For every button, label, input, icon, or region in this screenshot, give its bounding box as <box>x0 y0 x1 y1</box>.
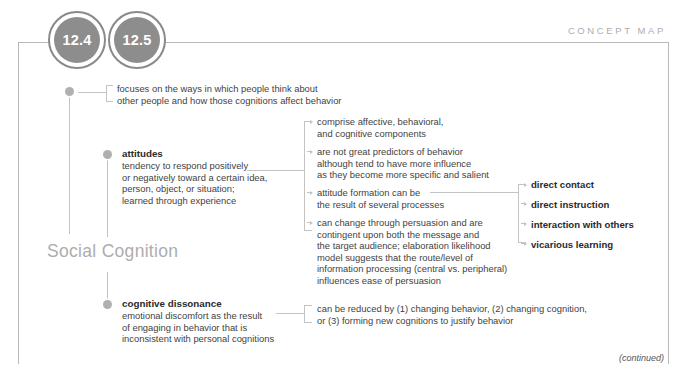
cognitive-dissonance-term: cognitive dissonance <box>122 298 302 310</box>
attitudes-detail-2: are not great predictors of behavior alt… <box>317 146 532 181</box>
attitudes-term: attitudes <box>122 148 297 160</box>
concept-map-label: CONCEPT MAP <box>568 25 666 36</box>
map-title: Social Cognition <box>47 241 178 262</box>
bracket-intro <box>106 85 113 102</box>
cognitive-dissonance-definition: emotional discomfort as the result of en… <box>122 310 274 344</box>
formation-source-direct-contact: direct contact <box>531 179 671 191</box>
attitudes-detail-4: can change through persuasion and are co… <box>317 217 532 287</box>
chapter-badge-number: 12.4 <box>62 32 91 48</box>
tick-attitudes-detail-1 <box>307 121 312 122</box>
frame-border-top-right <box>150 42 668 43</box>
attitudes-detail-3: attitude formation can be the result of … <box>317 187 532 210</box>
chapter-badges: 12.4 12.5 <box>48 11 166 69</box>
cognitive-dissonance-detail-1: can be reduced by (1) changing behavior,… <box>317 303 637 326</box>
trunk-line-primary <box>69 94 70 234</box>
bracket-dissonance-details <box>304 305 312 323</box>
node-dot-intro <box>65 87 74 96</box>
tick-attitudes-detail-4 <box>307 222 312 223</box>
trunk-line-attitudes <box>107 157 108 237</box>
connector-dissonance-details <box>276 313 304 314</box>
formation-source-interaction-with-others: interaction with others <box>531 219 671 231</box>
concept-map-page: CONCEPT MAP 12.4 12.5 Social Cognition f… <box>0 0 688 383</box>
connector-attitudes-details <box>247 170 304 171</box>
intro-text: focuses on the ways in which people thin… <box>117 83 377 106</box>
bracket-attitudes-details <box>304 121 312 231</box>
attitudes-definition: tendency to respond positively or negati… <box>122 160 267 206</box>
tick-source-3 <box>521 223 526 224</box>
chapter-badge-12-4: 12.4 <box>48 11 106 69</box>
tick-attitudes-detail-3 <box>307 192 312 193</box>
tick-source-1 <box>521 184 526 185</box>
connector-formation-sources <box>430 192 518 193</box>
formation-source-direct-instruction: direct instruction <box>531 199 671 211</box>
tick-source-2 <box>521 203 526 204</box>
node-dot-attitudes <box>103 150 112 159</box>
bracket-formation-sources <box>518 184 526 243</box>
formation-source-vicarious-learning: vicarious learning <box>531 239 671 251</box>
cognitive-dissonance-block: cognitive dissonanceemotional discomfort… <box>122 298 302 345</box>
attitudes-block: attitudestendency to respond positively … <box>122 148 297 206</box>
tick-attitudes-detail-2 <box>307 151 312 152</box>
connector-intro <box>78 92 106 93</box>
chapter-badge-12-5: 12.5 <box>108 11 166 69</box>
frame-border-left <box>18 42 19 364</box>
tick-source-4 <box>521 243 526 244</box>
continued-note: (continued) <box>619 353 664 363</box>
node-dot-cognitive-dissonance <box>103 300 112 309</box>
attitudes-detail-1: comprise affective, behavioral, and cogn… <box>317 116 532 139</box>
chapter-badge-number: 12.5 <box>122 32 151 48</box>
